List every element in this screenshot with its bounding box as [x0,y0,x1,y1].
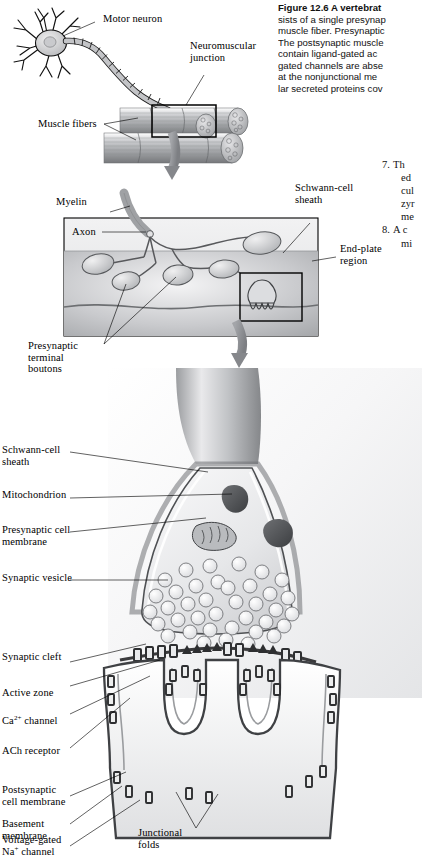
label-junctional-folds: Junctional folds [138,827,182,850]
label-neuromuscular-junction: Neuromuscular junction [190,40,256,63]
caption-line-5: contain ligand-gated ac [278,48,422,60]
caption-line-7: at the nonjunctional me [278,71,422,83]
label-ca-channel: Ca2+ channel [2,715,58,727]
list-item: ed [382,171,422,184]
axon-node [147,231,154,238]
postsynaptic-muscle [104,660,340,838]
label-active-zone: Active zone [2,687,54,699]
label-myelin: Myelin [56,196,87,208]
label-mitochondrion: Mitochondrion [2,489,66,501]
caption-line-6: gated channels are abse [278,60,422,72]
label-presynaptic-cell-membrane: Presynaptic cell membrane [2,524,70,547]
label-synaptic-vesicle: Synaptic vesicle [2,572,72,584]
myelinated-axon [66,38,168,111]
label-muscle-fibers: Muscle fibers [38,118,97,130]
figure-12-6: Motor neuron Neuromuscular junction Musc… [0,0,422,858]
label-motor-neuron: Motor neuron [103,13,162,25]
list-text-2: ed [393,171,411,184]
figure-caption: Figure 12.6 A vertebrat sists of a singl… [278,2,422,106]
label-voltage-gated-na-channel: Voltage-gatedNa+ channel [2,834,61,857]
label-ach-receptor: ACh receptor [2,745,60,757]
label-postsynaptic-cell-membrane: Postsynaptic cell membrane [2,784,65,807]
label-axon: Axon [72,226,96,238]
label-schwann-cell-sheath-bottom: Schwann-cell sheath [2,444,60,467]
nucleus [44,37,56,47]
list-number: 7. [382,158,393,171]
list-item: 7. Th [382,158,422,171]
label-synaptic-cleft: Synaptic cleft [2,651,61,663]
caption-line-4: The postsynaptic muscle [278,37,422,49]
caption-line-3: muscle fiber. Presynaptic [278,25,422,37]
label-schwann-cell-sheath-mid: Schwann-cell sheath [295,182,353,205]
label-end-plate-region: End-plate region [340,243,382,266]
list-text-1: Th [393,158,405,171]
caption-line-2: sists of a single presynap [278,14,422,26]
panel-motor-neuron-overview [0,0,285,180]
caption-line-8: lar secreted proteins cov [278,83,422,95]
caption-line-1: Figure 12.6 A vertebrat [278,2,381,13]
